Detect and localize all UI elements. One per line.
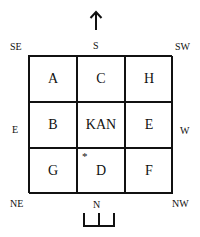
cell-e: E bbox=[125, 102, 173, 148]
cell-label: D bbox=[96, 163, 106, 179]
cell-label: F bbox=[145, 163, 153, 179]
direction-s: S bbox=[93, 41, 99, 51]
cell-d: * D bbox=[77, 148, 125, 194]
cell-label: E bbox=[145, 117, 154, 133]
room-grid: A C H B KAN E G * D F bbox=[28, 55, 172, 193]
cell-label: A bbox=[48, 71, 58, 87]
cell-h: H bbox=[125, 56, 173, 102]
direction-ne: NE bbox=[10, 199, 23, 209]
direction-w: W bbox=[180, 126, 189, 136]
cell-b: B bbox=[29, 102, 77, 148]
cell-g: G bbox=[29, 148, 77, 194]
direction-nw: NW bbox=[172, 199, 189, 209]
entrance-marker: * bbox=[82, 150, 88, 162]
cell-label: KAN bbox=[86, 117, 116, 133]
cell-label: G bbox=[48, 163, 58, 179]
cell-label: H bbox=[144, 71, 154, 87]
gate-icon bbox=[82, 212, 116, 228]
direction-sw: SW bbox=[175, 42, 190, 52]
direction-e: E bbox=[12, 125, 18, 135]
cell-f: F bbox=[125, 148, 173, 194]
cell-label: B bbox=[48, 117, 57, 133]
up-arrow-icon bbox=[89, 10, 103, 30]
cell-a: A bbox=[29, 56, 77, 102]
cell-label: C bbox=[96, 71, 105, 87]
direction-n: N bbox=[93, 200, 100, 210]
direction-se: SE bbox=[10, 42, 22, 52]
cell-c: C bbox=[77, 56, 125, 102]
cell-kan: KAN bbox=[77, 102, 125, 148]
